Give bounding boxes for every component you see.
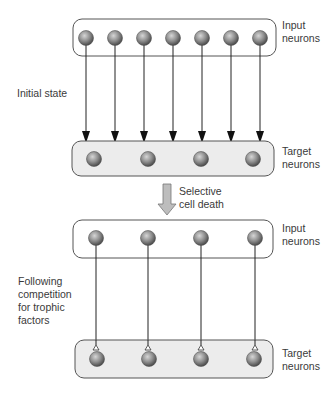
final-connections (96, 244, 255, 345)
neuron-diagram (0, 0, 336, 395)
neuron (194, 231, 209, 246)
initial-state-label: Initial state (17, 87, 67, 100)
top-target-box (72, 141, 274, 176)
top-target-label: Target neurons (282, 145, 320, 171)
neuron (87, 152, 102, 167)
neuron (141, 231, 156, 246)
selective-cell-death-arrow-icon (158, 184, 176, 215)
neuron (194, 352, 209, 367)
neuron (247, 352, 262, 367)
neuron (253, 31, 268, 46)
neuron (89, 231, 104, 246)
neuron (224, 31, 239, 46)
bottom-input-label: Input neurons (282, 222, 320, 248)
transition-label: Selective cell death (179, 185, 224, 211)
neuron (142, 352, 157, 367)
bottom-target-label: Target neurons (282, 347, 320, 373)
initial-connections (86, 44, 260, 135)
neuron (195, 31, 210, 46)
neuron (79, 31, 94, 46)
neuron (141, 152, 156, 167)
neuron (248, 231, 263, 246)
neuron (194, 152, 209, 167)
neuron (108, 31, 123, 46)
neuron (246, 152, 261, 167)
neuron (166, 31, 181, 46)
neuron (137, 31, 152, 46)
neuron (90, 352, 105, 367)
top-input-label: Input neurons (282, 19, 320, 45)
following-label: Following competition for trophic factor… (18, 275, 72, 327)
